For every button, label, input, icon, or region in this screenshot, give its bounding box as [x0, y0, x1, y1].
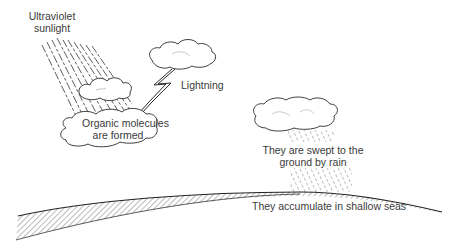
swept-label-line1: They are swept to the — [254, 144, 372, 156]
rain-streaks-lower — [290, 168, 352, 192]
organic-molecules-label: Organic molecules are formed — [82, 117, 154, 141]
origin-of-organic-molecules-diagram: Ultraviolet sunlight Lightning Organic m… — [0, 0, 458, 245]
lightning-label: Lightning — [181, 79, 224, 91]
uv-sunlight-label: Ultraviolet sunlight — [22, 10, 82, 34]
swept-label-line2: ground by rain — [254, 156, 372, 168]
lightning-bolt — [140, 69, 175, 113]
uv-label-line2: sunlight — [22, 22, 82, 34]
uv-label-line1: Ultraviolet — [22, 10, 82, 22]
organic-label-line2: are formed — [82, 129, 154, 141]
rain-streaks-upper — [288, 130, 334, 142]
organic-label-line1: Organic molecules — [82, 117, 154, 129]
lightning-cloud — [150, 40, 216, 70]
rain-cloud — [254, 97, 338, 131]
accumulate-label: They accumulate in shallow seas — [252, 200, 406, 212]
swept-by-rain-label: They are swept to the ground by rain — [254, 144, 372, 168]
small-cloud — [79, 78, 132, 101]
